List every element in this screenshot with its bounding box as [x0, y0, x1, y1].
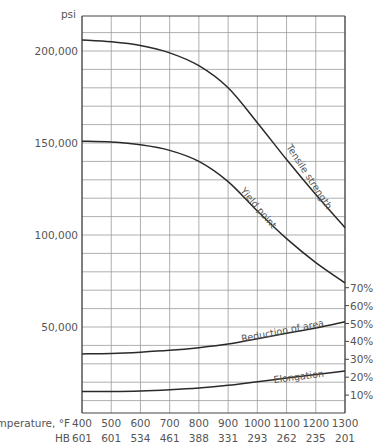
curves [82, 40, 345, 392]
y-tick-label: 100,000 [35, 229, 78, 241]
hb-axis-title: HB [55, 432, 70, 444]
x-tick-label: 800 [189, 417, 209, 429]
hb-tick-label: 293 [247, 432, 267, 444]
x-tick-label: 700 [160, 417, 180, 429]
x-tick-label: 1200 [302, 417, 329, 429]
y2-tick-label: 40% [350, 335, 373, 347]
y2-tick-label: 10% [350, 389, 373, 401]
series-tensile-strength [82, 40, 345, 228]
y2-tick-label: 70% [350, 282, 373, 294]
x-tick-label: 1000 [244, 417, 271, 429]
y-axis-unit-label: psi [61, 8, 76, 20]
hb-tick-label: 331 [218, 432, 238, 444]
x-tick-label: 500 [101, 417, 121, 429]
chart-canvas: 200,000150,000100,00050,00070%60%50%40%3… [0, 0, 381, 446]
y-tick-label: 150,000 [35, 137, 78, 149]
hb-tick-label: 235 [306, 432, 326, 444]
hb-tick-label: 534 [130, 432, 150, 444]
hb-tick-label: 461 [160, 432, 180, 444]
y2-tick-label: 50% [350, 318, 373, 330]
x-tick-label: 600 [130, 417, 150, 429]
x-tick-label: 900 [218, 417, 238, 429]
y2-tick-label: 20% [350, 371, 373, 383]
x-tick-label: 1100 [273, 417, 300, 429]
x-tick-label: 1300 [332, 417, 359, 429]
label-yield-point: Yield point [238, 184, 279, 230]
hb-tick-label: 601 [72, 432, 92, 444]
tick-labels: 200,000150,000100,00050,00070%60%50%40%3… [35, 45, 374, 444]
label-tensile-strength: Tensile strength [284, 141, 335, 211]
hb-tick-label: 601 [101, 432, 121, 444]
x-tick-label: 400 [72, 417, 92, 429]
label-reduction-of-area: Reduction of area [240, 317, 324, 344]
y2-tick-label: 60% [350, 300, 373, 312]
hb-tick-label: 201 [335, 432, 355, 444]
y2-tick-label: 30% [350, 353, 373, 365]
y-tick-label: 50,000 [41, 321, 78, 333]
hb-tick-label: 262 [277, 432, 297, 444]
hb-tick-label: 388 [189, 432, 209, 444]
x-axis-title: Temperature, °F [0, 417, 70, 429]
y-tick-label: 200,000 [35, 45, 78, 57]
